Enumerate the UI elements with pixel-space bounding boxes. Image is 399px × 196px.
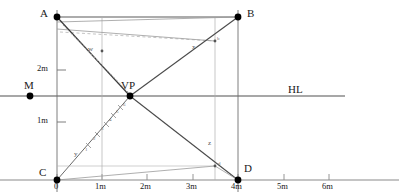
diagonal-tick-label-4: 4 (109, 117, 112, 122)
label-segment-b: b (217, 36, 220, 41)
diagonal-tick-label-3: 3 (101, 126, 104, 131)
dot-b (214, 40, 217, 43)
label-scale-1m: 1m (37, 116, 48, 125)
label-axis-2m: 2m (140, 182, 151, 191)
label-point-C: C (39, 167, 46, 178)
label-axis-0: 0 (54, 182, 58, 191)
label-axis-3m: 3m (186, 182, 197, 191)
dashed-line-A-to-b (60, 32, 215, 41)
label-point-D: D (244, 163, 252, 174)
label-scale-2m: 2m (37, 64, 48, 73)
diagonal-tick-label-2: 2 (93, 136, 96, 141)
diagonal-tick-label-5: 5 (116, 109, 119, 114)
line-VP-to-D (130, 96, 238, 180)
diagonal-tick-label-6: 6 (123, 102, 126, 107)
label-axis-4m: 4m (231, 182, 242, 191)
line-VP-to-B (130, 17, 238, 96)
dot-A (54, 14, 61, 21)
diagonal-tick-label-1: 1 (85, 147, 88, 152)
construction-dots (101, 40, 217, 168)
label-segment-x: x (192, 44, 196, 51)
dot-B (235, 14, 242, 21)
dot-d (214, 165, 217, 168)
label-axis-5m: 5m (277, 182, 288, 191)
dot-VP (127, 93, 134, 100)
line-A-to-VP (57, 17, 130, 96)
line-A-to-b-lower (57, 29, 215, 41)
line-d-to-D (215, 166, 238, 180)
ground-tick-marks (57, 174, 329, 180)
diagram-canvas: A B C D VP M HL 2m 1m 0 1m 2m 3m 4m 5m 6… (0, 0, 399, 196)
label-point-M: M (24, 80, 34, 91)
dot-w (101, 50, 104, 53)
label-segment-y: y (74, 151, 78, 158)
label-segment-z: z (208, 140, 211, 147)
label-segment-w: w (88, 46, 93, 53)
label-axis-6m: 6m (322, 182, 333, 191)
dot-M (27, 93, 34, 100)
line-A-to-b-upper (57, 17, 238, 22)
label-point-A: A (40, 8, 48, 19)
label-point-B: B (247, 8, 254, 19)
label-point-VP: VP (121, 80, 135, 91)
diagram-vector-layer (0, 0, 399, 196)
line-C-to-d (57, 166, 215, 180)
label-axis-1m: 1m (95, 182, 106, 191)
label-segment-d: d (218, 161, 221, 166)
label-horizon-line: HL (288, 84, 303, 95)
